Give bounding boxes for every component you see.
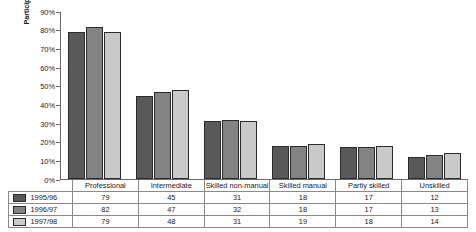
data-cell: 17	[336, 192, 402, 204]
bar[interactable]	[340, 147, 357, 179]
bar-group	[197, 12, 265, 179]
data-cell: 47	[138, 204, 204, 216]
legend-swatch	[13, 206, 26, 214]
bar[interactable]	[136, 96, 153, 180]
bar[interactable]	[408, 157, 425, 179]
data-cell: 79	[73, 192, 139, 204]
data-cell: 82	[73, 204, 139, 216]
table-corner-cell	[9, 180, 29, 192]
data-table: ProfessionalIntermediateSkilled non-manu…	[8, 180, 468, 228]
bar[interactable]	[86, 27, 103, 179]
y-axis-tick-mark	[56, 124, 60, 125]
bar-group	[400, 12, 468, 179]
category-header-cell: Unskilled	[402, 180, 468, 192]
bar[interactable]	[376, 146, 393, 179]
y-axis-tick-label: 10%	[40, 157, 55, 166]
bar-group	[129, 12, 197, 179]
legend-swatch	[13, 194, 26, 202]
data-cell: 18	[336, 216, 402, 228]
data-cell: 31	[204, 216, 270, 228]
category-header-cell: Skilled manual	[270, 180, 336, 192]
category-header-cell: Intermediate	[138, 180, 204, 192]
table-row: 1996/97824732181713	[9, 204, 468, 216]
y-axis-tick-mark	[56, 30, 60, 31]
category-header-cell: Professional	[73, 180, 139, 192]
bar-group	[61, 12, 129, 179]
y-axis-tick-label: 90%	[40, 8, 55, 17]
bar[interactable]	[240, 121, 257, 179]
y-axis-tick-mark	[56, 68, 60, 69]
y-axis-tick-mark	[56, 12, 60, 13]
bar[interactable]	[104, 32, 121, 179]
table-row: 1997/98794831191814	[9, 216, 468, 228]
bar[interactable]	[444, 153, 461, 179]
y-axis-tick-label: 80%	[40, 26, 55, 35]
bar[interactable]	[172, 90, 189, 179]
data-cell: 19	[270, 216, 336, 228]
y-axis-tick-label: 40%	[40, 101, 55, 110]
data-cell: 32	[204, 204, 270, 216]
bar[interactable]	[222, 120, 239, 179]
data-cell: 17	[336, 204, 402, 216]
bar[interactable]	[272, 146, 289, 179]
legend-series-label: 1996/97	[29, 204, 73, 216]
table-row: 1995/96794531181712	[9, 192, 468, 204]
data-cell: 13	[402, 204, 468, 216]
legend-series-label: 1997/98	[29, 216, 73, 228]
y-axis-tick-mark	[56, 49, 60, 50]
y-axis-title: Participation rates in higher education	[20, 0, 34, 38]
y-axis-tick-mark	[56, 105, 60, 106]
plot-area: 90%80%70%60%50%40%30%20%10%0%	[60, 12, 468, 180]
category-header-cell: Partly skilled	[336, 180, 402, 192]
data-cell: 14	[402, 216, 468, 228]
data-cell: 31	[204, 192, 270, 204]
data-cell: 79	[73, 216, 139, 228]
data-cell: 45	[138, 192, 204, 204]
bar[interactable]	[154, 92, 171, 179]
y-axis-tick-label: 60%	[40, 64, 55, 73]
data-cell: 12	[402, 192, 468, 204]
legend-swatch-cell	[9, 192, 29, 204]
y-axis-tick-label: 30%	[40, 120, 55, 129]
data-cell: 18	[270, 204, 336, 216]
bar[interactable]	[358, 147, 375, 179]
bar[interactable]	[68, 32, 85, 179]
table-header-row: ProfessionalIntermediateSkilled non-manu…	[9, 180, 468, 192]
legend-swatch-cell	[9, 216, 29, 228]
y-axis-tick-mark	[56, 86, 60, 87]
bar[interactable]	[204, 121, 221, 179]
y-axis-tick-label: 20%	[40, 138, 55, 147]
legend-swatch-cell	[9, 204, 29, 216]
data-cell: 18	[270, 192, 336, 204]
bar-group	[332, 12, 400, 179]
bar-groups	[61, 12, 468, 179]
bar-chart: Participation rates in higher education …	[0, 0, 476, 232]
y-axis-tick-mark	[56, 161, 60, 162]
data-cell: 48	[138, 216, 204, 228]
category-header-cell: Skilled non-manual	[204, 180, 270, 192]
legend-swatch	[13, 218, 26, 226]
bar[interactable]	[290, 146, 307, 179]
bar[interactable]	[308, 144, 325, 179]
y-axis-tick-label: 50%	[40, 82, 55, 91]
table-corner-cell	[29, 180, 73, 192]
y-axis-tick-label: 70%	[40, 45, 55, 54]
y-axis-tick-mark	[56, 142, 60, 143]
bar-group	[264, 12, 332, 179]
bar[interactable]	[426, 155, 443, 179]
legend-series-label: 1995/96	[29, 192, 73, 204]
